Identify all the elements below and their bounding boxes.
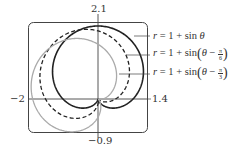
legend-eq-1: r = 1 + sin θ	[153, 31, 205, 42]
xmin-label: −2	[10, 94, 25, 104]
ymin-label: −0.9	[88, 136, 112, 146]
ymax-label: 2.1	[91, 4, 107, 14]
legend-eq-2: r = 1 + sin(θ − π6)	[153, 47, 228, 61]
xmax-label: 1.4	[152, 94, 168, 104]
curves-group	[31, 26, 143, 132]
legend-eq-3: r = 1 + sin(θ − π3)	[153, 66, 228, 80]
curve-3	[31, 38, 116, 131]
